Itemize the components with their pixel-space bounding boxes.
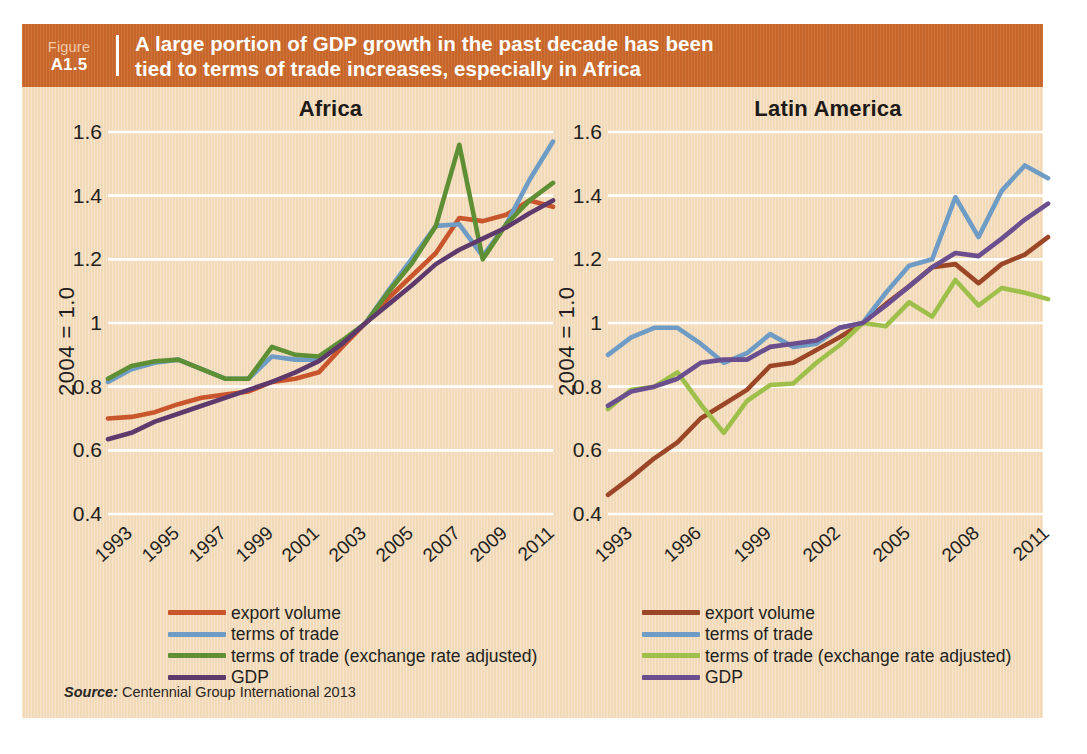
x-tick-label: 1996 <box>660 522 706 567</box>
x-axis-ticks: 1993199519971999200120032005200720092011 <box>108 522 553 592</box>
y-axis-ticks: 0.40.60.811.21.41.6 <box>56 132 102 514</box>
legend-item[interactable]: export volume <box>642 602 1011 624</box>
legend-label: export volume <box>231 604 341 622</box>
legend-label: GDP <box>705 668 743 686</box>
legend-label: terms of trade <box>231 625 339 643</box>
legend-color-swatch <box>642 632 700 637</box>
x-tick-label: 2011 <box>513 522 558 566</box>
legend-item[interactable]: terms of trade <box>168 624 537 646</box>
figure-header-bar: Figure A1.5 A large portion of GDP growt… <box>22 24 1043 87</box>
legend-africa: export volumeterms of tradeterms of trad… <box>168 602 537 688</box>
y-tick-label: 0.6 <box>73 438 102 462</box>
source-label: Source: <box>64 684 118 700</box>
series-line <box>608 237 1048 495</box>
y-tick-label: 1.6 <box>73 120 102 144</box>
x-tick-label: 1997 <box>184 522 230 567</box>
legend-item[interactable]: terms of trade <box>642 624 1011 646</box>
x-tick-label: 2007 <box>418 522 464 567</box>
plot-area <box>108 132 553 514</box>
legend-item[interactable]: terms of trade (exchange rate adjusted) <box>642 645 1011 667</box>
y-tick-label: 1.2 <box>573 247 602 271</box>
source-text: Centennial Group International 2013 <box>122 684 356 700</box>
x-tick-label: 1993 <box>591 522 637 567</box>
x-tick-label: 1993 <box>91 522 137 567</box>
legend-item[interactable]: terms of trade (exchange rate adjusted) <box>168 645 537 667</box>
legend-latam: export volumeterms of tradeterms of trad… <box>642 602 1011 688</box>
chart-panel-africa: Africa0.40.60.811.21.41.6199319951997199… <box>108 96 553 536</box>
legend-color-swatch <box>168 675 226 680</box>
x-tick-label: 2009 <box>465 522 511 567</box>
chart-title-latam: Latin America <box>608 96 1048 122</box>
y-tick-label: 0.8 <box>73 375 102 399</box>
series-line <box>608 280 1048 433</box>
legend-color-swatch <box>642 610 700 615</box>
x-tick-label: 2003 <box>325 522 371 567</box>
x-tick-label: 1999 <box>730 522 776 567</box>
x-axis-ticks: 1993199619992002200520082011 <box>608 522 1048 592</box>
series-line <box>108 145 553 379</box>
plot-area <box>608 132 1048 514</box>
source-note: Source:Centennial Group International 20… <box>64 684 356 700</box>
x-tick-label: 2011 <box>1008 522 1053 566</box>
y-axis-ticks: 0.40.60.811.21.41.6 <box>556 132 602 514</box>
figure-word: Figure <box>48 39 90 55</box>
y-tick-label: 1.2 <box>73 247 102 271</box>
legend-color-swatch <box>642 675 700 680</box>
y-tick-label: 1.6 <box>573 120 602 144</box>
legend-item[interactable]: GDP <box>642 667 1011 689</box>
y-tick-label: 1.4 <box>573 184 602 208</box>
y-tick-label: 1.4 <box>73 184 102 208</box>
x-tick-label: 1999 <box>231 522 277 567</box>
x-tick-label: 2005 <box>868 522 914 567</box>
figure-number: A1.5 <box>51 55 88 75</box>
chart-panel-latam: Latin America0.40.60.811.21.41.619931996… <box>608 96 1048 536</box>
legend-item[interactable]: export volume <box>168 602 537 624</box>
y-tick-label: 1 <box>590 311 602 335</box>
y-tick-label: 0.4 <box>73 502 102 526</box>
figure-title-line-2: tied to terms of trade increases, especi… <box>135 56 1043 81</box>
legend-color-swatch <box>168 632 226 637</box>
y-tick-label: 0.8 <box>573 375 602 399</box>
x-tick-label: 2008 <box>938 522 984 567</box>
x-tick-label: 2002 <box>799 522 845 567</box>
figure-number-block: Figure A1.5 <box>22 24 116 87</box>
y-tick-label: 1 <box>90 311 102 335</box>
x-tick-label: 2005 <box>372 522 418 567</box>
x-tick-label: 2001 <box>278 522 324 567</box>
legend-label: terms of trade <box>705 625 813 643</box>
legend-label: export volume <box>705 604 815 622</box>
legend-color-swatch <box>168 610 226 615</box>
legend-color-swatch <box>168 653 226 658</box>
figure-title-line-1: A large portion of GDP growth in the pas… <box>135 31 1043 56</box>
y-tick-label: 0.6 <box>573 438 602 462</box>
legend-label: terms of trade (exchange rate adjusted) <box>705 647 1011 665</box>
legend-color-swatch <box>642 653 700 658</box>
legend-label: terms of trade (exchange rate adjusted) <box>231 647 537 665</box>
figure-card: Figure A1.5 A large portion of GDP growt… <box>22 24 1043 718</box>
figure-title: A large portion of GDP growth in the pas… <box>119 24 1043 87</box>
figure-root: Figure A1.5 A large portion of GDP growt… <box>0 0 1087 754</box>
chart-title-africa: Africa <box>108 96 553 122</box>
x-tick-label: 1995 <box>137 522 183 567</box>
y-tick-label: 0.4 <box>573 502 602 526</box>
